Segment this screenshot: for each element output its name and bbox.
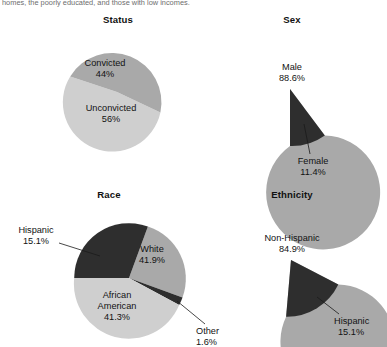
chart-title-ethnicity: Ethnicity [222, 189, 362, 200]
pie-label-white-name: White [140, 244, 164, 254]
chart-panel-race: Race White 41.9% African American 41.3% … [16, 189, 216, 347]
figure-page: homes, the poorly educated, and those wi… [0, 0, 387, 347]
pie-label-female-name: Female [298, 156, 329, 166]
pie-label-other-value: 1.6% [196, 337, 217, 347]
pie-svg-status: Convicted 44% Unconvicted 56% [48, 28, 188, 158]
chart-title-sex: Sex [222, 14, 362, 25]
chart-panel-ethnicity: Ethnicity Non-Hispanic 84.9% Hispanic 15… [222, 189, 362, 347]
pie-label-african-american-value: 41.3% [104, 312, 130, 322]
pie-label-other-name: Other [196, 326, 219, 336]
leader-line-other [177, 301, 205, 324]
pie-svg-ethnicity: Non-Hispanic 84.9% Hispanic 15.1% [222, 201, 387, 347]
pie-chart-ethnicity: Non-Hispanic 84.9% Hispanic 15.1% [222, 201, 387, 347]
pie-label-african-american-name-line2: American [98, 301, 137, 311]
chart-title-race: Race [16, 189, 202, 200]
pie-label-african-american-name-line1: African [103, 290, 132, 300]
pie-label-male-value: 88.6% [279, 73, 305, 83]
pie-svg-race: White 41.9% African American 41.3% Hispa… [0, 201, 216, 347]
pie-chart-status: Convicted 44% Unconvicted 56% [48, 28, 188, 158]
pie-label-hispanic-ethnicity-name: Hispanic [334, 316, 370, 326]
pie-label-hispanic-race-value: 15.1% [23, 236, 49, 246]
chart-title-status: Status [48, 14, 188, 25]
pie-chart-sex: Male 88.6% Female 11.4% [222, 28, 372, 178]
pie-label-non-hispanic-value: 84.9% [279, 244, 305, 254]
pie-label-unconvicted-value: 56% [102, 114, 120, 124]
pie-label-female-value: 11.4% [300, 167, 325, 177]
pie-label-convicted-name: Convicted [85, 58, 126, 68]
clipped-body-text: homes, the poorly educated, and those wi… [2, 0, 262, 7]
pie-slice-female[interactable] [290, 89, 325, 146]
pie-chart-race: White 41.9% African American 41.3% Hispa… [0, 201, 216, 347]
pie-label-hispanic-race-name: Hispanic [18, 225, 54, 235]
pie-label-non-hispanic-name: Non-Hispanic [264, 233, 320, 243]
chart-panel-sex: Sex Male 88.6% Female 11.4% [222, 14, 362, 179]
pie-label-male-name: Male [282, 62, 302, 72]
pie-label-hispanic-ethnicity-value: 15.1% [338, 327, 364, 337]
pie-label-unconvicted-name: Unconvicted [86, 103, 137, 113]
pie-label-white-value: 41.9% [139, 255, 165, 265]
chart-panel-status: Status Convicted 44% Unconvicted 56% [48, 14, 188, 164]
pie-label-convicted-value: 44% [96, 69, 114, 79]
pie-svg-sex: Male 88.6% Female 11.4% [222, 28, 372, 178]
